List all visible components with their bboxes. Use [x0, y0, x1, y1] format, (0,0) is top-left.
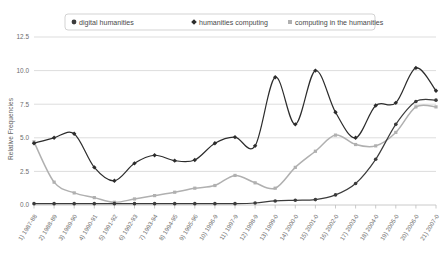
- data-point-marker: [173, 191, 176, 194]
- legend-label: humanities computing: [199, 19, 268, 27]
- x-tick-label: 19) 2005-0: [378, 212, 400, 241]
- data-point-marker: [53, 181, 56, 184]
- x-tick-label: 14) 2000-0: [278, 212, 300, 241]
- x-tick-labels-group: 1) 1987-882) 1988-893) 1989-904) 1990-91…: [16, 212, 440, 241]
- x-tick-label: 1) 1987-88: [16, 212, 38, 241]
- data-point-marker: [32, 202, 36, 206]
- data-point-marker: [314, 198, 318, 202]
- y-tick-label: 0.0: [20, 201, 29, 208]
- data-point-marker: [294, 198, 298, 202]
- data-point-marker: [233, 174, 236, 177]
- x-tick-label: 11) 1997-9: [218, 212, 240, 241]
- data-point-marker: [52, 202, 56, 206]
- data-point-marker: [273, 199, 277, 203]
- series-line: [34, 105, 436, 202]
- data-point-marker: [394, 123, 398, 127]
- square-marker: [288, 20, 292, 24]
- data-point-marker: [193, 158, 197, 162]
- data-point-marker: [233, 135, 237, 139]
- chart-container: 0.02.55.07.510.012.5 1) 1987-882) 1988-8…: [0, 0, 444, 259]
- x-tick-label: 21) 2007-0: [418, 212, 440, 241]
- y-tick-label: 2.5: [20, 168, 29, 175]
- data-point-marker: [294, 166, 297, 169]
- data-point-marker: [173, 202, 177, 206]
- data-point-marker: [353, 136, 357, 140]
- data-point-marker: [193, 187, 196, 190]
- data-point-marker: [153, 194, 156, 197]
- data-point-marker: [113, 202, 117, 206]
- data-point-marker: [274, 187, 277, 190]
- x-tick-label: 10) 1996-9: [197, 212, 219, 241]
- y-tick-label: 7.5: [20, 101, 29, 108]
- x-tick-label: 9) 1995-96: [177, 212, 199, 241]
- y-axis-title: Relative Frequencies: [7, 97, 15, 160]
- x-tick-marks-group: [34, 205, 436, 209]
- data-point-marker: [434, 105, 437, 108]
- y-tick-label: 12.5: [17, 33, 30, 40]
- circle-marker: [72, 20, 77, 25]
- data-point-marker: [93, 196, 96, 199]
- legend-label: computing in the humanities: [295, 19, 384, 27]
- data-point-marker: [52, 136, 56, 140]
- data-point-marker: [254, 181, 257, 184]
- x-tick-label: 20) 2006-0: [398, 212, 420, 241]
- y-tick-label: 5.0: [20, 134, 29, 141]
- data-point-marker: [374, 158, 378, 162]
- data-point-marker: [354, 143, 357, 146]
- data-point-marker: [152, 153, 156, 157]
- data-point-marker: [253, 201, 257, 205]
- x-tick-label: 7) 1993-94: [137, 212, 159, 241]
- data-point-marker: [193, 202, 197, 206]
- legend-label: digital humanities: [79, 19, 134, 27]
- y-tick-label: 10.0: [17, 67, 30, 74]
- data-point-marker: [153, 202, 157, 206]
- data-point-marker: [173, 158, 177, 162]
- data-point-marker: [112, 179, 116, 183]
- x-tick-label: 2) 1988-89: [37, 212, 59, 241]
- data-point-marker: [374, 144, 377, 147]
- data-point-marker: [414, 105, 417, 108]
- data-point-marker: [334, 134, 337, 137]
- x-tick-label: 18) 2004-0: [358, 212, 380, 241]
- gridlines-group: [34, 37, 436, 205]
- x-tick-label: 5) 1991-92: [97, 212, 119, 241]
- data-point-marker: [72, 202, 76, 206]
- data-point-marker: [133, 197, 136, 200]
- x-tick-label: 16) 2002-0: [318, 212, 340, 241]
- data-point-marker: [314, 150, 317, 153]
- data-point-marker: [233, 202, 237, 206]
- legend: digital humanitieshumanities computingco…: [65, 14, 384, 30]
- x-tick-label: 13) 1999-0: [258, 212, 280, 241]
- x-tick-label: 17) 2003-0: [338, 212, 360, 241]
- data-point-marker: [73, 191, 76, 194]
- y-tick-labels-group: 0.02.55.07.510.012.5: [17, 33, 30, 208]
- data-point-marker: [334, 193, 338, 197]
- data-point-marker: [213, 202, 217, 206]
- data-point-marker: [93, 202, 97, 206]
- data-point-marker: [394, 131, 397, 134]
- x-tick-label: 3) 1989-90: [57, 212, 79, 241]
- series-computing-in-the-humanities: [32, 105, 437, 204]
- data-point-marker: [354, 182, 358, 186]
- series-line: [34, 99, 436, 203]
- data-point-marker: [434, 98, 438, 102]
- data-point-marker: [414, 100, 418, 104]
- line-chart: 0.02.55.07.510.012.5 1) 1987-882) 1988-8…: [0, 0, 444, 259]
- data-point-marker: [133, 202, 137, 206]
- series-line: [34, 68, 436, 181]
- x-tick-label: 4) 1990-91: [77, 212, 99, 241]
- data-point-marker: [213, 184, 216, 187]
- x-tick-label: 12) 1998-9: [238, 212, 260, 241]
- series-group: [32, 66, 438, 206]
- x-tick-label: 15) 2001-0: [298, 212, 320, 241]
- series-digital-humanities: [32, 98, 438, 205]
- y-axis-title-text: Relative Frequencies: [7, 97, 15, 160]
- series-humanities-computing: [32, 66, 438, 183]
- x-tick-label: 8) 1994-95: [157, 212, 179, 241]
- x-tick-label: 6) 1992-93: [117, 212, 139, 241]
- legend-items-group: digital humanitieshumanities computingco…: [72, 19, 384, 27]
